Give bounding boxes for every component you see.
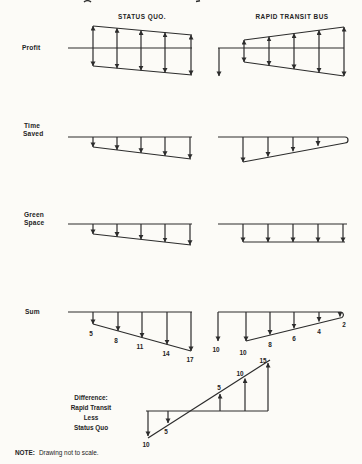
green-space-row-label-line1: Green: [24, 211, 44, 218]
time-saved-row-label-line2: Saved: [23, 130, 43, 137]
time-saved-row-label-line1: Time: [24, 122, 40, 129]
sum-value: 4: [317, 328, 321, 335]
sum-value: 10: [239, 349, 246, 356]
difference-value: 15: [259, 357, 266, 364]
green-space-rapid-transit-diagram: [218, 224, 347, 242]
profit-status-quo-diagram: [68, 26, 192, 75]
difference-value: 10: [142, 441, 149, 448]
sum-value: 5: [89, 330, 93, 337]
rapid-transit-header: RAPID TRANSIT BUS: [255, 13, 328, 20]
sum-row-label: Sum: [25, 308, 40, 315]
note-text: Drawing not to scale.: [39, 449, 99, 456]
sum-value: 6: [292, 335, 296, 342]
sum-value: 8: [114, 337, 118, 344]
time-saved-rapid-transit-diagram: [218, 137, 348, 162]
difference-value: 10: [236, 370, 243, 377]
profit-rapid-transit-diagram: [218, 27, 344, 76]
difference-value: 5: [164, 428, 168, 435]
profit-row-label: Profit: [22, 44, 40, 51]
note-prefix: NOTE:: [15, 449, 35, 456]
sum-value: 11: [137, 343, 144, 350]
figure-linework: [0, 0, 362, 464]
difference-diagram: [146, 360, 270, 438]
difference-label-line4: Status Quo: [74, 424, 108, 431]
scanned-figure-page: STATUS QUO. RAPID TRANSIT BUS Profit Tim…: [0, 0, 362, 464]
sum-value: 17: [186, 356, 193, 363]
sum-value: 8: [268, 341, 272, 348]
difference-label-line2: Rapid Transit: [71, 404, 111, 411]
sum-value: 14: [162, 350, 169, 357]
difference-label-line1: Difference:: [74, 394, 107, 401]
time-saved-status-quo-diagram: [68, 137, 192, 159]
sum-value: 2: [342, 321, 346, 328]
green-space-status-quo-diagram: [68, 224, 192, 245]
sum-value: 10: [212, 346, 219, 353]
sum-status-quo-diagram: [68, 312, 192, 351]
difference-label-line3: Less: [84, 414, 99, 421]
note: NOTE:Drawing not to scale.: [15, 449, 99, 456]
cropped-text-fragment: [84, 1, 200, 2]
sum-rapid-transit-diagram: [218, 312, 343, 341]
status-quo-header: STATUS QUO.: [118, 13, 166, 20]
difference-value: 5: [217, 384, 221, 391]
green-space-row-label-line2: Space: [24, 219, 44, 226]
